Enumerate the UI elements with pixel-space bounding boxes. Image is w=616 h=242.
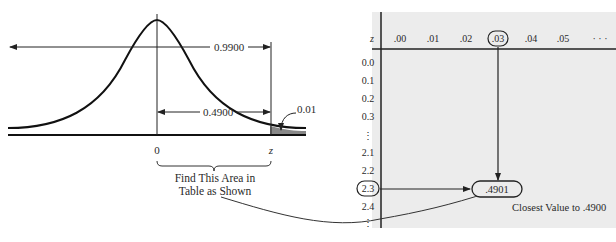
closest-value-label: Closest Value to .4900 bbox=[512, 202, 606, 213]
column-header: .00 bbox=[394, 33, 407, 44]
column-header: .05 bbox=[557, 33, 570, 44]
normal-table-diagram: 0.9900 0.4900 0.01 0 z Find This Area in… bbox=[0, 0, 616, 242]
row-label: 2.1 bbox=[362, 147, 375, 158]
find-area-label-2: Table as Shown bbox=[179, 185, 252, 197]
column-header: .04 bbox=[525, 33, 538, 44]
area-half-label: 0.4900 bbox=[203, 106, 234, 118]
axis-zero-label: 0 bbox=[154, 144, 160, 156]
interval-brace bbox=[157, 161, 271, 171]
table-header-z: z bbox=[369, 33, 374, 44]
row-label: 2.2 bbox=[362, 165, 375, 176]
column-header-ellipsis: · · · bbox=[593, 33, 608, 44]
column-header-highlighted: .03 bbox=[492, 33, 505, 44]
row-label: 0.2 bbox=[362, 93, 375, 104]
column-header: .01 bbox=[427, 33, 440, 44]
row-ellipsis: ⋮ bbox=[363, 130, 373, 141]
row-label-highlighted: 2.3 bbox=[362, 183, 375, 194]
row-label: 2.4 bbox=[362, 201, 375, 212]
found-value: .4901 bbox=[485, 184, 509, 195]
row-label: 0.0 bbox=[362, 57, 375, 68]
tail-area-label: 0.01 bbox=[297, 103, 316, 115]
row-label: 0.1 bbox=[362, 75, 375, 86]
row-label: 0.3 bbox=[362, 111, 375, 122]
find-area-label-1: Find This Area in bbox=[175, 172, 256, 184]
row-ellipsis: ⋮ bbox=[363, 217, 373, 228]
area-total-label: 0.9900 bbox=[214, 41, 245, 53]
axis-z-label: z bbox=[268, 144, 274, 156]
column-header: .02 bbox=[460, 33, 473, 44]
